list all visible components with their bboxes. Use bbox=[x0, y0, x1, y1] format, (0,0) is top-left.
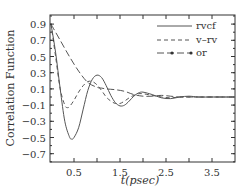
y-tick-label: −0.7 bbox=[22, 149, 46, 160]
y-tick-label: 0.3 bbox=[30, 68, 46, 79]
legend-label-rvcf: rvcf bbox=[196, 20, 217, 31]
y-tick-label: −0.5 bbox=[22, 133, 46, 144]
y-tick-label: 0.5 bbox=[30, 52, 46, 63]
x-tick-label: 2.5 bbox=[158, 167, 174, 178]
legend-label-or: or bbox=[196, 47, 207, 58]
y-tick-label: 0.7 bbox=[30, 35, 46, 46]
y-tick-label: 0.1 bbox=[30, 84, 46, 95]
legend: rvcf v–rv or bbox=[157, 20, 217, 58]
y-tick-label: −0.1 bbox=[22, 100, 46, 111]
legend-label-v-rv: v–rv bbox=[195, 34, 217, 45]
legend-marker-or bbox=[170, 51, 173, 54]
correlation-chart: 0.90.70.50.30.1−0.1−0.3−0.5−0.70.51.52.5… bbox=[0, 0, 248, 189]
y-tick-label: −0.3 bbox=[22, 116, 46, 127]
x-tick-label: 0.5 bbox=[66, 167, 82, 178]
x-axis-label: t(psec) bbox=[121, 174, 159, 187]
y-axis-label: Correlation Function bbox=[4, 30, 17, 147]
x-tick-label: 3.5 bbox=[204, 167, 220, 178]
y-tick-label: 0.9 bbox=[30, 19, 46, 30]
legend-marker-or bbox=[189, 51, 192, 54]
